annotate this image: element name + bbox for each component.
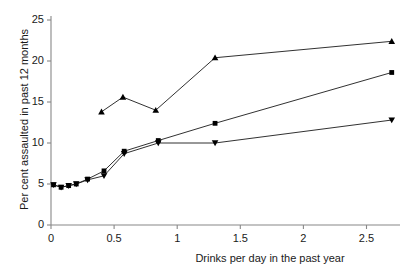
data-point-marker	[102, 168, 107, 173]
y-axis-label: Per cent assaulted in past 12 months	[18, 29, 30, 210]
data-point-marker	[388, 38, 395, 44]
series-down-triangles	[50, 117, 395, 190]
chart-container: 051015202500.511.522.5Per cent assaulted…	[0, 0, 405, 277]
y-axis-tick-label: 25	[32, 13, 44, 25]
y-axis-tick-label: 0	[38, 218, 44, 230]
x-axis-tick-label: 0.5	[94, 232, 134, 244]
x-axis-tick-label: 2.5	[347, 232, 387, 244]
data-point-marker	[389, 70, 394, 75]
data-point-marker	[98, 109, 105, 115]
series-squares	[51, 70, 394, 190]
y-axis-tick-label: 5	[38, 177, 44, 189]
x-axis-tick-label: 0	[31, 232, 71, 244]
y-axis-tick-label: 20	[32, 54, 44, 66]
series-up-triangles	[98, 38, 395, 114]
y-axis-tick-label: 10	[32, 136, 44, 148]
x-axis-label: Drinks per day in the past year	[150, 252, 390, 264]
series-line	[101, 41, 391, 112]
y-axis-tick-label: 15	[32, 95, 44, 107]
x-axis-tick-label: 2	[283, 232, 323, 244]
x-axis-tick-label: 1	[157, 232, 197, 244]
data-point-marker	[120, 94, 127, 100]
x-axis-tick-label: 1.5	[220, 232, 260, 244]
data-point-marker	[213, 121, 218, 126]
